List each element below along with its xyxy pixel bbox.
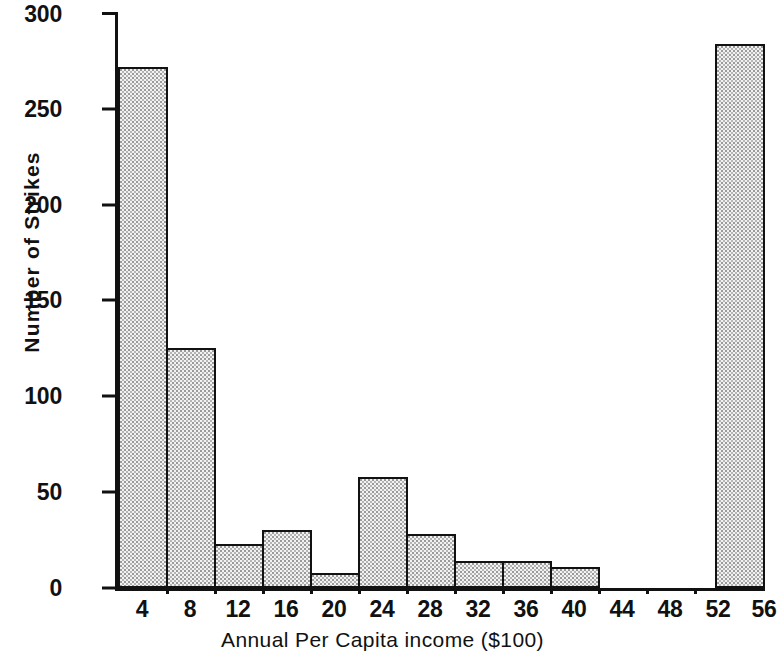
- x-tick-mark-20: [358, 588, 361, 594]
- x-axis-title: Annual Per Capita income ($100): [0, 628, 765, 652]
- x-tick-mark-28: [454, 588, 457, 594]
- x-tick-mark-16: [310, 588, 313, 594]
- x-tick-mark-36: [550, 588, 553, 594]
- x-tick-mark-32: [502, 588, 505, 594]
- x-tick-mark-24: [406, 588, 409, 594]
- x-tick-label-56: 56: [734, 598, 781, 621]
- x-tick-mark-48: [694, 588, 697, 594]
- x-tick-mark-44: [646, 588, 649, 594]
- x-tick-mark-40: [598, 588, 601, 594]
- x-tick-mark-4: [166, 588, 169, 594]
- x-tick-mark-12: [262, 588, 265, 594]
- x-tick-mark-8: [214, 588, 217, 594]
